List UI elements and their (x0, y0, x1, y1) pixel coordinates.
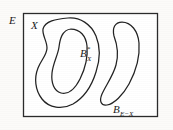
set-diagram-svg: E X B * X B E−X (0, 0, 173, 130)
set-x-label: X (30, 19, 39, 31)
boundary-e-minus-x-label-subscript: E−X (119, 110, 134, 118)
boundary-x-star-label-subscript: X (86, 55, 92, 63)
universe-label: E (8, 14, 16, 26)
boundary-x-star-label-superscript: * (87, 45, 91, 53)
boundary-x-star-label-base: B (80, 47, 87, 59)
figure-canvas: E X B * X B E−X (0, 0, 173, 130)
boundary-e-minus-x-label-base: B (113, 103, 120, 115)
